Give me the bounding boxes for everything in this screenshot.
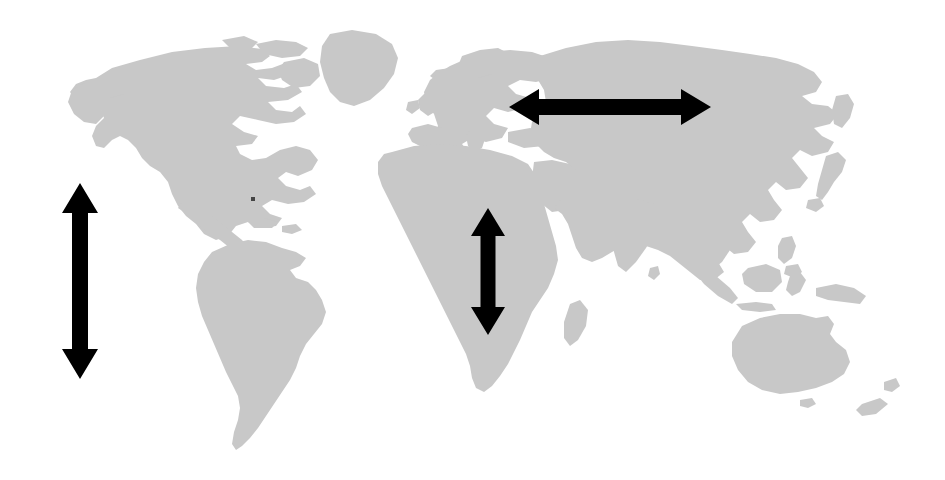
world-map-canvas [0,0,945,480]
world-map-figure [0,0,945,480]
landmass-atlantic-islet [251,197,255,201]
